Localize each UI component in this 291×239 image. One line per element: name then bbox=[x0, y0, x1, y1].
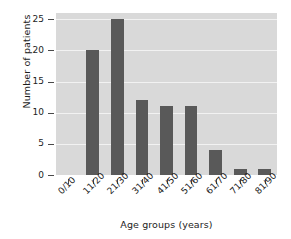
y-tick-label: 25 bbox=[22, 15, 44, 24]
bar[interactable] bbox=[111, 19, 124, 175]
bar-cell bbox=[154, 13, 179, 175]
y-tick-mark bbox=[48, 144, 54, 145]
y-tick-mark bbox=[48, 19, 54, 20]
bar[interactable] bbox=[160, 106, 173, 175]
bar-cell bbox=[253, 13, 278, 175]
bar[interactable] bbox=[136, 100, 149, 175]
x-axis-title: Age groups (years) bbox=[56, 219, 277, 230]
bar-cell bbox=[81, 13, 106, 175]
y-tick-label: 20 bbox=[22, 46, 44, 55]
bar-cell bbox=[105, 13, 130, 175]
y-tick-mark bbox=[48, 50, 54, 51]
bar[interactable] bbox=[86, 50, 99, 175]
y-tick-label: 0 bbox=[22, 171, 44, 180]
bar-cell bbox=[203, 13, 228, 175]
bar[interactable] bbox=[185, 106, 198, 175]
y-tick-label: 5 bbox=[22, 139, 44, 148]
y-tick-mark bbox=[48, 175, 54, 176]
bar-cell bbox=[228, 13, 253, 175]
y-tick-label: 15 bbox=[22, 77, 44, 86]
y-tick-mark bbox=[48, 113, 54, 114]
bar-cell bbox=[56, 13, 81, 175]
bar-chart-figure: Number of patients 0510152025 0/1011/202… bbox=[0, 0, 291, 239]
y-tick-label: 10 bbox=[22, 108, 44, 117]
bar-cell bbox=[130, 13, 155, 175]
bar-series bbox=[56, 13, 277, 175]
x-tick-label: 0/10 bbox=[56, 175, 77, 196]
bar-cell bbox=[179, 13, 204, 175]
y-tick-mark bbox=[48, 82, 54, 83]
plot-area bbox=[56, 13, 277, 175]
